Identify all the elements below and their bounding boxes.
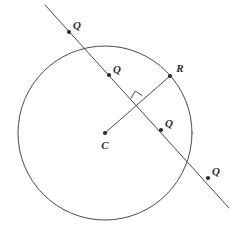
label-c-center: C (101, 139, 109, 151)
geometry-canvas: Q Q R C Q Q (0, 0, 237, 234)
geometry-figure: Q Q R C Q Q (0, 0, 237, 234)
label-q-outside-bottom: Q (212, 165, 220, 177)
point-q-outside-top (67, 30, 71, 34)
point-q-inside-lower (159, 128, 163, 132)
label-q-outside-top: Q (73, 19, 81, 31)
label-r-on-circle: R (175, 62, 183, 74)
label-q-inside-lower: Q (165, 117, 173, 129)
right-angle-mark (131, 91, 142, 98)
secant-line (45, 5, 229, 208)
point-q-inside-upper (107, 73, 111, 77)
label-q-inside-upper: Q (113, 63, 121, 75)
point-q-outside-bottom (206, 176, 210, 180)
radius-segment-cr (105, 76, 170, 133)
point-c-center (103, 131, 107, 135)
point-r-on-circle (168, 74, 172, 78)
